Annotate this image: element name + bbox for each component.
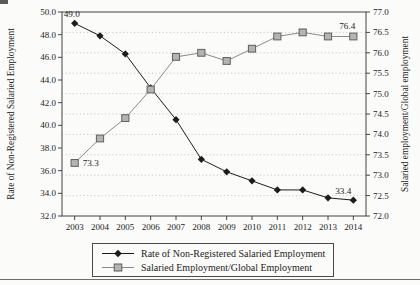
x-axis-tick-label: 2005 — [116, 222, 135, 232]
right-axis-tick-label: 76.5 — [373, 27, 389, 37]
data-label: 49.0 — [64, 9, 80, 19]
series-line-rate — [75, 23, 354, 200]
legend-marker-square-icon — [101, 263, 135, 272]
marker-square — [71, 160, 78, 167]
marker-square — [198, 49, 205, 56]
data-label: 76.4 — [339, 21, 355, 31]
x-axis-tick-label: 2010 — [243, 222, 262, 232]
right-axis-tick-label: 75.5 — [373, 68, 389, 78]
marker-square — [223, 58, 230, 65]
x-axis-tick-label: 2014 — [344, 222, 363, 232]
legend-entry-rate: Rate of Non-Registered Salaried Employme… — [101, 246, 333, 260]
right-axis-tick-label: 76.0 — [373, 48, 389, 58]
left-axis-tick-label: 46.0 — [40, 52, 56, 62]
marker-diamond — [299, 186, 306, 193]
legend-label-salaried: Salaried Employment/Global Employment — [141, 262, 312, 273]
x-axis-tick-label: 2007 — [167, 222, 186, 232]
x-axis-tick-label: 2006 — [142, 222, 161, 232]
right-axis-tick-label: 73.0 — [373, 170, 389, 180]
marker-square — [299, 29, 306, 36]
marker-square — [172, 53, 179, 60]
left-axis-tick-label: 50.0 — [40, 7, 56, 17]
bottom-rule — [0, 279, 420, 280]
marker-square — [324, 33, 331, 40]
legend-label-rate: Rate of Non-Registered Salaried Employme… — [141, 248, 325, 259]
right-axis-title: Salaried employment/Global employment — [398, 12, 412, 216]
left-axis-tick-label: 44.0 — [40, 75, 56, 85]
x-axis-tick-label: 2011 — [268, 222, 286, 232]
x-axis-tick-label: 2003 — [66, 222, 85, 232]
marker-diamond — [198, 156, 205, 163]
x-axis-tick-label: 2013 — [319, 222, 338, 232]
marker-square — [274, 33, 281, 40]
left-axis-tick-label: 40.0 — [40, 120, 56, 130]
legend-marker-diamond-icon — [101, 249, 135, 258]
marker-diamond — [274, 186, 281, 193]
right-axis-tick-label: 73.5 — [373, 150, 389, 160]
right-axis-tick-label: 74.5 — [373, 109, 389, 119]
right-axis-tick-label: 77.0 — [373, 7, 389, 17]
series-line-salaried — [75, 32, 354, 163]
data-label: 33.4 — [335, 186, 351, 196]
data-label: 73.3 — [83, 158, 99, 168]
marker-diamond — [96, 32, 103, 39]
marker-diamond — [71, 20, 78, 27]
legend-box: Rate of Non-Registered Salaried Employme… — [92, 243, 334, 277]
marker-square — [350, 33, 357, 40]
right-axis-tick-label: 75.0 — [373, 89, 389, 99]
x-axis-tick-label: 2009 — [218, 222, 237, 232]
dual-axis-line-chart: Rate of Non-Registered Salaried Employme… — [0, 0, 420, 285]
marker-square — [122, 115, 129, 122]
x-axis-tick-label: 2008 — [192, 222, 211, 232]
right-axis-tick-label: 72.0 — [373, 211, 389, 221]
left-axis-tick-label: 32.0 — [40, 211, 56, 221]
marker-diamond — [223, 168, 230, 175]
x-axis-tick-label: 2004 — [91, 222, 110, 232]
left-axis-tick-label: 34.0 — [40, 188, 56, 198]
left-axis-tick-label: 38.0 — [40, 143, 56, 153]
left-axis-tick-label: 36.0 — [40, 166, 56, 176]
legend-entry-salaried: Salaried Employment/Global Employment — [101, 260, 333, 274]
marker-square — [96, 135, 103, 142]
marker-square — [147, 86, 154, 93]
right-axis-tick-label: 74.0 — [373, 129, 389, 139]
left-axis-tick-label: 42.0 — [40, 98, 56, 108]
right-axis-tick-label: 72.5 — [373, 191, 389, 201]
marker-diamond — [350, 197, 357, 204]
marker-square — [248, 45, 255, 52]
marker-diamond — [122, 50, 129, 57]
left-axis-tick-label: 48.0 — [40, 30, 56, 40]
marker-diamond — [248, 177, 255, 184]
x-axis-tick-label: 2012 — [294, 222, 312, 232]
